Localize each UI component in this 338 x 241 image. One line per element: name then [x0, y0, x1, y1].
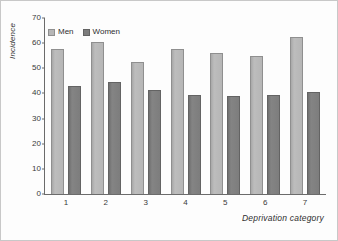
bar-women-category-6[interactable]: [267, 95, 280, 194]
legend-swatch-men-icon: [48, 29, 55, 36]
y-axis-tick-mark: [42, 68, 45, 69]
x-axis-tick-label-3: 3: [131, 199, 161, 207]
bar-chart-figure: Incidence 010203040506070 Men Women Depr…: [0, 0, 338, 241]
y-axis-tick-label: 60: [32, 39, 41, 47]
y-axis-tick-label: 0: [37, 190, 41, 198]
bar-women-category-1[interactable]: [68, 86, 81, 194]
y-axis-tick-label: 20: [32, 140, 41, 148]
bar-group: [290, 18, 320, 194]
bar-women-category-4[interactable]: [188, 95, 201, 194]
bar-group: [131, 18, 161, 194]
legend-swatch-women-icon: [83, 29, 90, 36]
bar-group: [171, 18, 201, 194]
legend-item-men: Men: [48, 28, 74, 36]
bar-women-category-5[interactable]: [227, 96, 240, 194]
bar-women-category-2[interactable]: [108, 82, 121, 194]
y-axis-tick-label: 30: [32, 115, 41, 123]
bar-men-category-5[interactable]: [210, 53, 223, 194]
bar-women-category-7[interactable]: [307, 92, 320, 194]
y-axis-tick-mark: [42, 118, 45, 119]
y-axis-tick-label: 10: [32, 165, 41, 173]
x-axis-tick-label-2: 2: [91, 199, 121, 207]
legend-item-women: Women: [83, 28, 120, 36]
y-axis-tick-mark: [42, 143, 45, 144]
y-axis-tick-mark: [42, 194, 45, 195]
y-axis-tick-mark: [42, 168, 45, 169]
x-axis-tick-label-1: 1: [51, 199, 81, 207]
legend-label-men: Men: [58, 28, 74, 36]
x-axis-tick-label-4: 4: [171, 199, 201, 207]
y-axis-title: Incidence: [8, 23, 17, 59]
x-axis-line: [44, 194, 326, 195]
bar-men-category-7[interactable]: [290, 37, 303, 194]
bar-group: [91, 18, 121, 194]
y-axis-tick-label: 50: [32, 64, 41, 72]
bar-group: [51, 18, 81, 194]
bar-men-category-2[interactable]: [91, 42, 104, 194]
y-axis-tick-label: 40: [32, 89, 41, 97]
x-axis-title: Deprivation category: [242, 213, 324, 223]
plot-area: 010203040506070: [45, 18, 326, 194]
bar-group: [210, 18, 240, 194]
y-axis-tick-mark: [42, 18, 45, 19]
y-axis-tick-mark: [42, 43, 45, 44]
y-axis-tick-mark: [42, 93, 45, 94]
chart-legend: Men Women: [48, 28, 120, 36]
bar-men-category-6[interactable]: [250, 56, 263, 194]
bar-men-category-1[interactable]: [51, 49, 64, 194]
x-axis-tick-label-6: 6: [250, 199, 280, 207]
x-axis-tick-label-5: 5: [210, 199, 240, 207]
bar-men-category-4[interactable]: [171, 49, 184, 194]
bar-group: [250, 18, 280, 194]
y-axis-tick-label: 70: [32, 14, 41, 22]
bar-men-category-3[interactable]: [131, 62, 144, 194]
x-axis-tick-label-7: 7: [290, 199, 320, 207]
bar-women-category-3[interactable]: [148, 90, 161, 194]
legend-label-women: Women: [93, 28, 120, 36]
